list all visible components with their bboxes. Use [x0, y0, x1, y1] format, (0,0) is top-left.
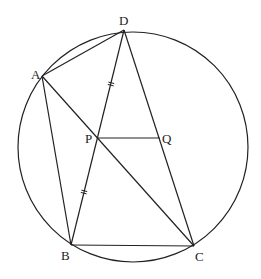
- label-point-D: D: [119, 13, 128, 28]
- circumcircle: [18, 32, 248, 262]
- geometry-diagram: ABCDPQ: [0, 0, 261, 279]
- segment-AB: [42, 76, 71, 245]
- label-point-P: P: [85, 131, 92, 146]
- segment-AC: [42, 76, 194, 246]
- label-point-A: A: [31, 67, 41, 82]
- tick-mark: [81, 190, 87, 191]
- segment-BC: [71, 245, 194, 246]
- tick-mark: [81, 192, 87, 193]
- segment-AD: [42, 30, 124, 76]
- label-point-Q: Q: [162, 131, 172, 146]
- label-point-B: B: [61, 248, 70, 263]
- label-point-C: C: [195, 249, 204, 264]
- tick-mark: [108, 82, 114, 83]
- tick-mark: [108, 84, 114, 85]
